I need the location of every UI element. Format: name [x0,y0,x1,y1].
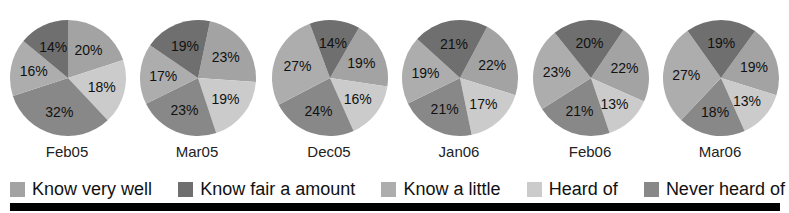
legend-swatch [527,182,542,197]
slice-value-label: 13% [733,93,761,109]
slice-value-label: 17% [469,96,497,112]
slice-value-label: 14% [39,39,67,55]
slice-value-label: 19% [171,38,199,54]
legend-swatch [178,182,193,197]
pie-label: Feb06 [525,143,655,160]
pie-svg: 22%17%21%19%21% [400,18,520,138]
slice-value-label: 32% [45,104,73,120]
slice-value-label: 13% [600,96,628,112]
legend-swatch [10,182,25,197]
slice-value-label: 14% [319,35,347,51]
slice-value-label: 19% [707,35,735,51]
pie-charts-row: 20%18%32%16%14%Feb05 23%19%23%17%19%Mar0… [0,18,789,158]
legend-item-know-a-little: Know a little [381,179,500,200]
pie-chart-2: 19%16%24%27%14%Dec05 [264,18,394,158]
slice-value-label: 27% [283,58,311,74]
legend-label: Know very well [32,179,152,200]
slice-value-label: 18% [701,104,729,120]
slice-value-label: 19% [412,65,440,81]
legend-label: Never heard of [666,179,785,200]
pie-svg: 23%19%23%17%19% [138,18,258,138]
slice-value-label: 21% [431,101,459,117]
slice-value-label: 18% [88,79,116,95]
legend: Know very well Know fair a amount Know a… [10,178,785,200]
legend-swatch [381,182,396,197]
slice-value-label: 19% [211,91,239,107]
pie-label: Mar06 [655,143,785,160]
pie-svg: 22%13%21%23%20% [531,18,651,138]
legend-item-know-very-well: Know very well [10,179,152,200]
pie-svg: 20%18%32%16%14% [8,18,128,138]
slice-value-label: 19% [740,59,768,75]
legend-item-never-heard-of: Never heard of [644,179,785,200]
bottom-divider-bar [10,203,780,211]
pie-label: Dec05 [264,143,394,160]
pie-chart-3: 22%17%21%19%21%Jan06 [394,18,524,158]
legend-swatch [644,182,659,197]
slice-value-label: 20% [74,42,102,58]
slice-value-label: 23% [543,64,571,80]
legend-label: Heard of [549,179,618,200]
legend-label: Know a little [403,179,500,200]
pie-label: Feb05 [2,143,132,160]
slice-value-label: 17% [149,68,177,84]
pie-chart-0: 20%18%32%16%14%Feb05 [2,18,132,158]
pie-chart-1: 23%19%23%17%19%Mar05 [132,18,262,158]
slice-value-label: 20% [576,35,604,51]
pie-label: Jan06 [394,143,524,160]
slice-value-label: 27% [672,67,700,83]
slice-value-label: 16% [344,91,372,107]
pie-chart-5: 19%13%18%27%19%Mar06 [655,18,785,158]
pie-svg: 19%16%24%27%14% [270,18,390,138]
slice-value-label: 19% [347,55,375,71]
legend-item-heard-of: Heard of [527,179,618,200]
slice-value-label: 21% [440,36,468,52]
slice-value-label: 16% [20,63,48,79]
slice-value-label: 23% [171,102,199,118]
slice-value-label: 21% [565,103,593,119]
slice-value-label: 24% [305,103,333,119]
legend-item-know-fair-amount: Know fair a amount [178,179,355,200]
pie-chart-4: 22%13%21%23%20%Feb06 [525,18,655,158]
legend-label: Know fair a amount [200,179,355,200]
slice-value-label: 22% [478,57,506,73]
slice-value-label: 22% [610,60,638,76]
pie-svg: 19%13%18%27%19% [661,18,781,138]
slice-value-label: 23% [212,49,240,65]
pie-label: Mar05 [132,143,262,160]
